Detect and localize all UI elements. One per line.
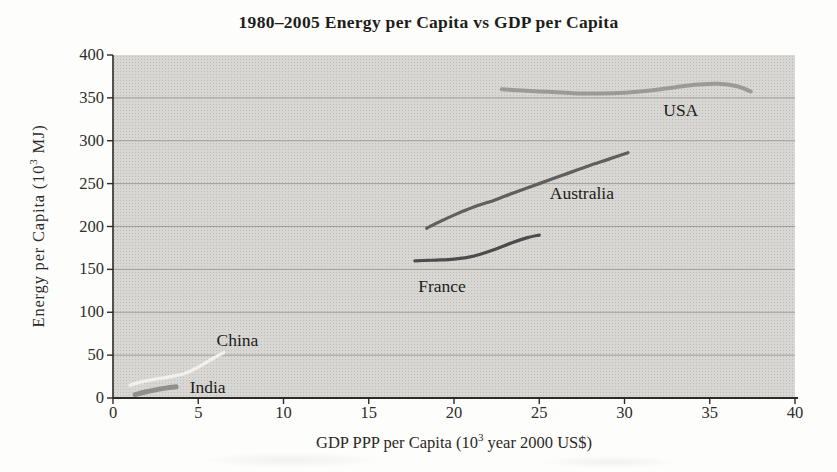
y-tick-label: 200 <box>58 219 104 235</box>
x-axis-label: GDP PPP per Capita (103 year 2000 US$) <box>113 431 795 453</box>
y-tick-label: 250 <box>58 176 104 192</box>
x-tick-label: 10 <box>264 403 304 423</box>
x-tick-label: 30 <box>605 403 645 423</box>
usa-label: USA <box>663 100 698 120</box>
australia-label: Australia <box>550 183 614 203</box>
china-label: China <box>217 330 259 350</box>
x-tick-label: 5 <box>178 403 218 423</box>
x-tick-label: 0 <box>93 403 133 423</box>
x-tick-label: 40 <box>775 403 815 423</box>
y-axis-label-text: Energy per Capita (10 <box>29 165 48 328</box>
x-tick-label: 25 <box>519 403 559 423</box>
y-tick-label: 350 <box>58 90 104 106</box>
india-label: India <box>190 377 226 397</box>
y-tick-label: 100 <box>58 304 104 320</box>
y-axis-label-sup: 3 <box>27 158 39 164</box>
x-axis-label-unit: year 2000 US$) <box>483 433 592 452</box>
y-tick-label: 400 <box>58 47 104 63</box>
y-axis-label: Energy per Capita (103 MJ) <box>27 125 49 328</box>
france-line <box>415 235 539 261</box>
x-tick-label: 15 <box>349 403 389 423</box>
india-line <box>135 387 176 395</box>
chart-canvas: IndiaChinaFranceAustraliaUSA <box>0 0 837 472</box>
x-tick-label: 35 <box>690 403 730 423</box>
y-tick-label: 300 <box>58 133 104 149</box>
x-tick-label: 20 <box>434 403 474 423</box>
france-label: France <box>418 276 466 296</box>
x-axis-label-text: GDP PPP per Capita (10 <box>316 433 478 452</box>
y-axis-label-unit: MJ) <box>29 125 48 159</box>
y-tick-label: 150 <box>58 261 104 277</box>
chart-page: 1980–2005 Energy per Capita vs GDP per C… <box>0 0 837 472</box>
y-tick-label: 50 <box>58 347 104 363</box>
usa-line <box>502 84 751 94</box>
